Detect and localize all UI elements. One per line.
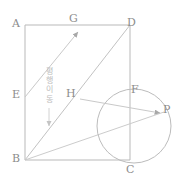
translation-char-3: 이 — [44, 85, 54, 94]
point-label-a: A — [12, 18, 20, 29]
circle — [97, 89, 171, 163]
point-label-h: H — [66, 88, 76, 99]
translation-char-4: 동 — [44, 95, 54, 104]
point-label-c: C — [126, 164, 134, 175]
point-label-g: G — [69, 13, 78, 24]
translation-char-2: 행 — [44, 76, 54, 85]
arrow-h-to-p — [80, 99, 160, 113]
point-label-e: E — [12, 89, 20, 100]
geometry-figure: A B C D E F G H P 평 행 이 동 — [0, 0, 179, 183]
diagonal-bd — [25, 25, 130, 160]
translation-char-1: 평 — [44, 67, 54, 76]
figure-canvas — [0, 0, 179, 183]
point-label-d: D — [127, 17, 136, 28]
point-label-f: F — [131, 84, 139, 95]
translation-annotation: 평 행 이 동 — [44, 67, 54, 104]
point-label-p: P — [163, 104, 170, 115]
point-label-b: B — [12, 153, 20, 164]
segment-bp — [25, 112, 164, 160]
